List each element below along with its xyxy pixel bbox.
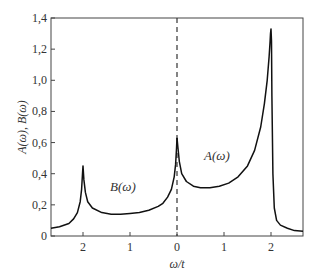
- chart: 21012 00,20,40,60,81,01,21,4 B(ω)A(ω) ω/…: [0, 0, 317, 277]
- y-tick-label: 0,6: [32, 136, 47, 150]
- x-tick-label: 1: [221, 240, 227, 254]
- y-tick-label: 0: [41, 229, 47, 243]
- y-tick-label: 0,8: [32, 104, 47, 118]
- series-label: A(ω): [203, 148, 230, 163]
- y-tick-label: 1,4: [32, 11, 47, 25]
- y-axis-label: A(ω), B(ω): [15, 100, 29, 155]
- x-tick-label: 1: [127, 240, 133, 254]
- x-tick-label: 2: [80, 240, 86, 254]
- y-tick-label: 0,4: [32, 167, 47, 181]
- y-axis-ticks: 00,20,40,60,81,01,21,4: [32, 11, 55, 243]
- x-tick-label: 0: [174, 240, 180, 254]
- series-label: B(ω): [110, 179, 136, 194]
- x-tick-label: 2: [268, 240, 274, 254]
- y-tick-label: 0,2: [32, 198, 47, 212]
- curve-a: [177, 29, 303, 231]
- x-axis-label: ω/t: [169, 257, 185, 271]
- y-tick-label: 1,0: [32, 73, 47, 87]
- y-tick-label: 1,2: [32, 42, 47, 56]
- x-axis-ticks: 21012: [80, 232, 274, 254]
